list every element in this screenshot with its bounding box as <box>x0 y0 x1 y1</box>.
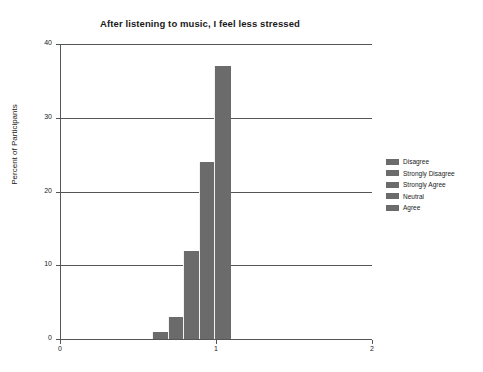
y-tick-label: 30 <box>26 113 52 120</box>
legend-label: Strongly Disagree <box>403 170 455 177</box>
x-tick-label: 1 <box>206 345 226 352</box>
bar <box>199 162 216 339</box>
gridline <box>60 44 372 45</box>
legend-swatch <box>386 170 399 176</box>
bar-chart: After listening to music, I feel less st… <box>0 0 483 372</box>
legend-label: Strongly Agree <box>403 181 446 188</box>
legend-item: Strongly Agree <box>386 179 481 191</box>
legend-swatch <box>386 205 399 211</box>
y-tick-label: 0 <box>26 334 52 341</box>
legend-item: Disagree <box>386 156 481 168</box>
legend-item: Neutral <box>386 191 481 203</box>
bar <box>152 332 169 339</box>
chart-title: After listening to music, I feel less st… <box>0 18 400 29</box>
y-tick-label: 20 <box>26 187 52 194</box>
legend-label: Agree <box>403 204 420 211</box>
y-tick-label: 40 <box>26 39 52 46</box>
legend-item: Agree <box>386 202 481 214</box>
legend-item: Strongly Disagree <box>386 168 481 180</box>
gridline <box>60 339 372 340</box>
bar <box>183 251 200 340</box>
x-tick-mark <box>216 340 217 344</box>
bar <box>168 317 185 339</box>
plot-area <box>60 44 372 339</box>
legend-label: Neutral <box>403 193 424 200</box>
y-axis-label: Percent of Participants <box>10 65 19 225</box>
bar <box>214 66 231 339</box>
legend-label: Disagree <box>403 158 429 165</box>
y-tick-label: 10 <box>26 260 52 267</box>
x-tick-mark <box>372 340 373 344</box>
x-tick-mark <box>60 340 61 344</box>
chart-legend: DisagreeStrongly DisagreeStrongly AgreeN… <box>386 156 481 214</box>
legend-swatch <box>386 159 399 165</box>
legend-swatch <box>386 182 399 188</box>
legend-swatch <box>386 193 399 199</box>
x-tick-label: 2 <box>362 345 382 352</box>
x-tick-label: 0 <box>50 345 70 352</box>
